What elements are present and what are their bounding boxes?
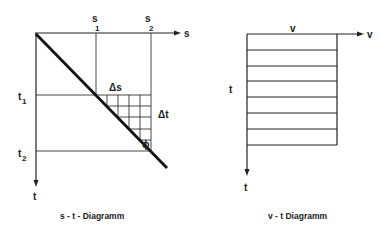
t2-subscript: 2: [22, 154, 27, 163]
s-axis-arrow-icon: [174, 31, 181, 36]
vt-diagram: v v t t v - t Diagramm: [229, 23, 373, 221]
s-axis-label: s: [184, 28, 190, 39]
v-axis-label: v: [367, 29, 373, 40]
s1-subscript: 1: [95, 24, 100, 33]
s2-label: s: [145, 13, 151, 24]
vt-caption: v - t Diagramm: [268, 211, 327, 221]
vt-strips: [247, 50, 337, 145]
vt-t-axis-label: t: [244, 182, 248, 193]
delta-s-label: Δs: [109, 82, 122, 93]
vt-side-t-label: t: [229, 84, 233, 95]
diagram-canvas: s t s 1 s 2 t 1 t 2: [0, 0, 389, 231]
s1-label: s: [92, 13, 98, 24]
delta-grid: [107, 95, 151, 140]
st-diagram: s t s 1 s 2 t 1 t 2: [18, 13, 190, 221]
v-level-label: v: [290, 23, 296, 34]
t-axis-label: t: [33, 191, 37, 202]
v-axis-arrow-icon: [357, 32, 364, 37]
vt-t-axis-arrow-icon: [245, 169, 250, 176]
s2-subscript: 2: [149, 24, 154, 33]
t1-subscript: 1: [22, 97, 27, 106]
angle-phi-label: ϕ: [142, 139, 150, 150]
t-axis-arrow-icon: [34, 180, 39, 187]
delta-t-label: Δt: [158, 109, 169, 120]
st-caption: s - t - Diagramm: [60, 211, 125, 221]
